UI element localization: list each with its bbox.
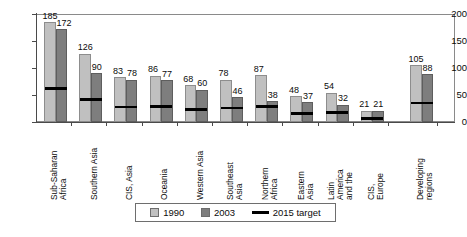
y-tick-label: 150: [437, 36, 467, 45]
x-category-label: SoutheastAsia: [226, 162, 244, 200]
x-category-label-line: Africa: [59, 151, 68, 200]
chart-legend: 1990 2003 2015 target: [135, 203, 336, 222]
target-line-2015: [221, 107, 243, 110]
bar-value-label-1990: 87: [254, 65, 264, 75]
bar-value-label-2003: 38: [268, 91, 278, 101]
target-line-2015: [115, 106, 137, 109]
y-tick-mark: [32, 41, 37, 42]
bar-2003: [126, 80, 138, 122]
x-category-label: EasternAsia: [297, 171, 315, 200]
bar-value-label-2003: 90: [92, 63, 102, 73]
bar-value-label-2003: 78: [127, 69, 137, 79]
bar-value-label-2003: 32: [338, 94, 348, 104]
bar-value-label-1990: 68: [183, 75, 193, 85]
target-line-2015: [80, 98, 102, 101]
chart-root: 050100150200 185172126908378867768607846…: [0, 0, 467, 237]
x-category-label: Developingregions: [416, 158, 434, 200]
bar-2003: [422, 74, 434, 122]
target-line-2015: [291, 112, 313, 115]
bar-1990: [220, 80, 232, 122]
bar-1990: [114, 77, 126, 122]
x-category-label-line: and the: [345, 169, 354, 200]
y-tick-mark: [32, 14, 37, 15]
x-category-label: Sub-SaharanAfrica: [50, 151, 68, 200]
x-category-label-line: Asia: [235, 162, 244, 200]
bar-value-label-1990: 185: [43, 12, 58, 22]
bar-value-label-2003: 37: [303, 92, 313, 102]
bar-1990: [185, 85, 197, 122]
x-tick-mark: [282, 122, 283, 126]
x-category-label: CIS, Asia: [125, 166, 134, 200]
x-tick-mark: [106, 122, 107, 126]
bar-2003: [56, 29, 68, 122]
bar-value-label-1990: 126: [78, 43, 93, 53]
x-tick-mark: [212, 122, 213, 126]
bar-value-label-1990: 21: [359, 100, 369, 110]
target-line-2015: [361, 117, 383, 120]
bar-value-label-1990: 83: [113, 67, 123, 77]
x-category-label: LatinAmericaand the: [327, 169, 355, 200]
target-line-2015: [45, 87, 67, 90]
bar-value-label-1990: 78: [219, 69, 229, 79]
bar-value-label-1990: 48: [289, 86, 299, 96]
legend-label-1990: 1990: [163, 208, 184, 218]
legend-item-1990: 1990: [150, 208, 184, 218]
legend-swatch-2003-icon: [201, 208, 210, 217]
bar-1990: [255, 75, 267, 122]
bar-value-label-2003: 88: [423, 64, 433, 74]
x-axis-line: [36, 122, 455, 123]
x-tick-mark: [388, 122, 389, 126]
x-tick-mark: [177, 122, 178, 126]
x-category-label: NorthernAfrica: [261, 167, 279, 200]
y-tick-label: 100: [437, 63, 467, 72]
x-category-label-line: Asia: [306, 171, 315, 200]
x-tick-mark: [247, 122, 248, 126]
x-category-label: Oceania: [160, 169, 169, 200]
x-category-label-line: Oceania: [160, 169, 169, 200]
bar-1990: [150, 76, 162, 122]
x-category-label-line: CIS, Asia: [125, 166, 134, 200]
x-category-label-line: Southern Asia: [90, 148, 99, 200]
legend-swatch-target-line-icon: [252, 211, 269, 214]
x-category-label-line: regions: [425, 158, 434, 200]
y-tick-mark: [32, 68, 37, 69]
legend-swatch-1990-icon: [150, 208, 159, 217]
y-tick-label: 0: [437, 117, 467, 126]
bar-value-label-2003: 60: [197, 79, 207, 89]
x-tick-mark: [71, 122, 72, 126]
x-tick-mark: [142, 122, 143, 126]
target-line-2015: [150, 105, 172, 108]
bar-value-label-1990: 105: [409, 55, 424, 65]
bar-value-label-1990: 86: [148, 65, 158, 75]
x-category-label-line: Africa: [271, 167, 280, 200]
target-line-2015: [411, 102, 433, 105]
x-category-label: Southern Asia: [90, 148, 99, 200]
y-tick-label: 50: [437, 90, 467, 99]
y-tick-mark: [32, 122, 37, 123]
bar-2003: [161, 80, 173, 122]
bar-value-label-2003: 172: [57, 19, 72, 29]
target-line-2015: [256, 105, 278, 108]
target-line-2015: [326, 111, 348, 114]
x-category-label: CIS,Europe: [367, 173, 385, 200]
bar-1990: [79, 54, 91, 122]
y-tick-mark: [32, 95, 37, 96]
bar-1990: [326, 93, 338, 122]
x-tick-mark: [353, 122, 354, 126]
legend-label-2003: 2003: [214, 208, 235, 218]
bar-1990: [410, 65, 422, 122]
bar-value-label-2003: 77: [162, 70, 172, 80]
bar-value-label-2003: 46: [233, 87, 243, 97]
x-category-label: Western Asia: [196, 151, 205, 200]
x-category-label-line: Europe: [376, 173, 385, 200]
bar-value-label-2003: 21: [373, 100, 383, 110]
x-tick-mark: [437, 122, 438, 126]
bar-value-label-1990: 54: [324, 82, 334, 92]
bar-1990: [44, 22, 56, 122]
y-axis-labels: [0, 0, 32, 237]
bar-2003: [196, 90, 208, 122]
target-line-2015: [185, 108, 207, 111]
x-tick-mark: [318, 122, 319, 126]
bar-2003: [232, 97, 244, 122]
x-category-label-line: Western Asia: [196, 151, 205, 200]
